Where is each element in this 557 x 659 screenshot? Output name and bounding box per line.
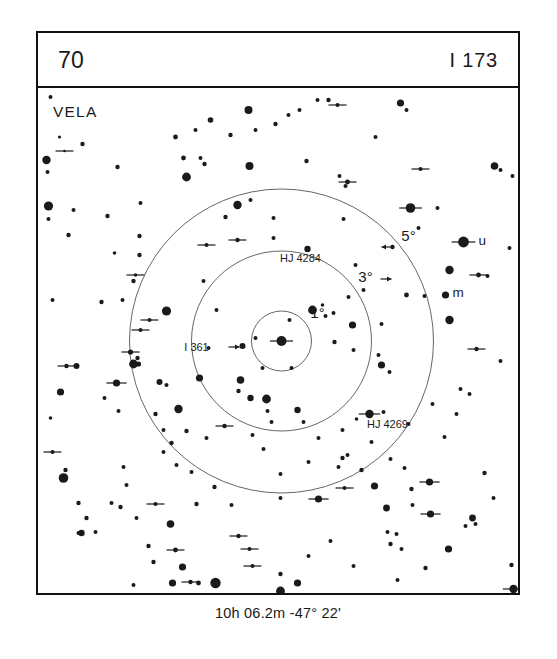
star-marker [354, 417, 358, 421]
star-marker [306, 554, 310, 558]
star-marker [409, 487, 413, 491]
star-marker [229, 503, 233, 507]
star-marker [76, 531, 80, 535]
star-marker [351, 348, 355, 352]
star-marker [353, 263, 357, 267]
star-marker [394, 532, 398, 536]
star-marker [383, 505, 390, 512]
star-marker [147, 318, 151, 322]
star-marker [181, 156, 186, 161]
star-marker [426, 510, 433, 517]
star-marker [42, 156, 50, 164]
star-marker [178, 563, 185, 570]
star-marker [278, 472, 282, 476]
star-marker [247, 395, 253, 401]
constellation-label: VELA [53, 103, 97, 121]
star-marker [278, 496, 282, 500]
star-marker [271, 236, 275, 240]
star-marker [361, 288, 365, 292]
star-marker [131, 583, 135, 587]
star-marker [425, 478, 432, 485]
star-marker [222, 424, 226, 428]
star-marker [262, 395, 271, 404]
star-marker [58, 473, 68, 483]
star-marker [331, 311, 335, 315]
star-marker [137, 253, 141, 257]
star-marker [131, 279, 135, 283]
star-marker [491, 496, 495, 500]
chart-header: 70 I 173 [36, 31, 520, 88]
star-marker [509, 585, 517, 593]
star-marker [174, 405, 182, 413]
star-marker [315, 98, 319, 102]
star-marker [469, 515, 476, 522]
stars-group [42, 95, 518, 593]
star-marker [121, 465, 125, 469]
star-marker [261, 447, 265, 451]
star-marker [276, 336, 286, 346]
star-marker [50, 450, 54, 454]
star-marker [168, 579, 175, 586]
star-marker [395, 578, 399, 582]
star-marker [223, 215, 227, 219]
star-marker [48, 95, 52, 99]
star-marker [236, 534, 240, 538]
star-marker [112, 379, 119, 386]
star-marker [342, 486, 346, 490]
star-marker [105, 214, 109, 218]
star-marker [253, 128, 257, 132]
star-marker [442, 435, 446, 439]
star-marker [184, 429, 188, 433]
star-marker [173, 548, 178, 553]
star-marker [204, 436, 208, 440]
star-marker [328, 539, 332, 543]
arrow-head [381, 244, 386, 249]
star-marker [161, 428, 165, 432]
star-marker [189, 470, 193, 474]
ring-label-2: 3° [358, 268, 372, 285]
star-marker [276, 587, 285, 593]
star-marker [402, 466, 406, 470]
star-marker [410, 503, 414, 507]
star-marker [48, 416, 52, 420]
star-marker [233, 201, 241, 209]
star-marker [93, 530, 97, 534]
star-marker [369, 440, 373, 444]
star-marker [64, 364, 68, 368]
star-marker [66, 233, 70, 237]
star-marker [73, 363, 79, 369]
star-marker [404, 293, 409, 298]
chart-catalog-id: I 173 [450, 48, 498, 71]
star-marker [265, 409, 269, 413]
star-marker [388, 542, 392, 546]
star-marker [173, 135, 178, 140]
star-marker [204, 243, 208, 247]
star-marker [467, 392, 471, 396]
star-marker [138, 328, 142, 332]
star-marker [294, 407, 300, 413]
star-marker [340, 456, 344, 460]
star-marker [166, 520, 174, 528]
star-marker [102, 396, 106, 400]
star-marker [345, 453, 349, 457]
star-marker [239, 343, 245, 349]
star-marker [50, 298, 54, 302]
star-marker [509, 563, 513, 567]
star-marker [301, 420, 305, 424]
star-marker [435, 206, 439, 210]
star-marker [441, 291, 448, 298]
star-marker [444, 545, 451, 552]
arrow-head [235, 344, 240, 349]
star-marker [498, 359, 502, 363]
star-marker [214, 308, 218, 312]
star-marker [377, 361, 384, 368]
star-marker [244, 106, 252, 114]
star-marker [510, 174, 514, 178]
annotation-u: u [478, 233, 486, 248]
star-marker [133, 273, 137, 277]
star-marker [250, 433, 254, 437]
star-marker [273, 122, 277, 126]
star-marker [359, 468, 363, 472]
star-marker [271, 216, 275, 220]
star-marker [474, 347, 478, 351]
